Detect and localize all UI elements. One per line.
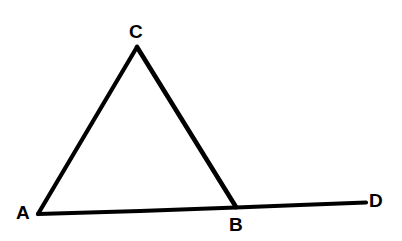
vertex-label-c: C (129, 22, 143, 41)
geometry-diagram (0, 0, 402, 241)
vertex-label-d: D (369, 191, 383, 210)
vertex-label-b: B (229, 215, 243, 234)
vertex-label-a: A (16, 203, 30, 222)
